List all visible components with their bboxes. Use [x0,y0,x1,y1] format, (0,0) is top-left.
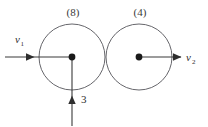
label-v1-subscript: 1 [20,40,24,48]
label-v1: v1 [15,33,24,48]
vector-v1-arrowhead [26,53,35,61]
center-dot-right [136,54,143,61]
vector-v2-arrowhead [173,53,182,61]
center-dot-left [69,54,76,61]
label-v2-subscript: 2 [192,58,196,66]
vector-v3-arrowhead [68,96,75,105]
label-v2-symbol: v [186,51,191,63]
label-left-mass: (8) [67,6,80,19]
label-vertical-value: 3 [81,93,87,105]
label-right-mass: (4) [134,6,147,19]
collision-diagram: (8) (4) v1 v2 3 [0,0,208,127]
label-v1-symbol: v [15,33,20,45]
diagram-canvas: (8) (4) v1 v2 3 [0,0,208,127]
label-v2: v2 [186,51,196,66]
